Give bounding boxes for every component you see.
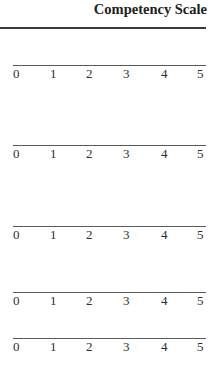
scale-tick-4[interactable]: 4 xyxy=(161,340,168,353)
scale-tick-5[interactable]: 5 xyxy=(197,340,204,353)
scale-tick-3[interactable]: 3 xyxy=(123,147,130,160)
scale-tick-3[interactable]: 3 xyxy=(123,67,130,80)
scale-line xyxy=(13,292,206,293)
scale-tick-0[interactable]: 0 xyxy=(13,294,20,307)
rating-scale-1[interactable]: 0 1 2 3 4 5 xyxy=(13,65,206,83)
scale-tick-5[interactable]: 5 xyxy=(197,228,204,241)
scale-tick-2[interactable]: 2 xyxy=(86,147,93,160)
scale-tick-1[interactable]: 1 xyxy=(50,228,57,241)
scale-tick-4[interactable]: 4 xyxy=(161,67,168,80)
scale-tick-3[interactable]: 3 xyxy=(123,340,130,353)
rating-scale-2[interactable]: 0 1 2 3 4 5 xyxy=(13,145,206,163)
scale-tick-2[interactable]: 2 xyxy=(86,294,93,307)
scale-tick-1[interactable]: 1 xyxy=(50,67,57,80)
scale-tick-4[interactable]: 4 xyxy=(161,228,168,241)
scale-tick-0[interactable]: 0 xyxy=(13,147,20,160)
scale-tick-5[interactable]: 5 xyxy=(197,294,204,307)
scale-tick-4[interactable]: 4 xyxy=(161,147,168,160)
scale-line xyxy=(13,338,206,339)
scale-tick-5[interactable]: 5 xyxy=(197,67,204,80)
scale-tick-0[interactable]: 0 xyxy=(13,340,20,353)
rating-scale-5[interactable]: 0 1 2 3 4 5 xyxy=(13,338,206,356)
scale-line xyxy=(13,226,206,227)
scale-line xyxy=(13,145,206,146)
rating-scale-3[interactable]: 0 1 2 3 4 5 xyxy=(13,226,206,244)
scale-tick-4[interactable]: 4 xyxy=(161,294,168,307)
scale-tick-3[interactable]: 3 xyxy=(123,228,130,241)
scale-tick-2[interactable]: 2 xyxy=(86,67,93,80)
scale-tick-3[interactable]: 3 xyxy=(123,294,130,307)
scale-tick-1[interactable]: 1 xyxy=(50,147,57,160)
scale-tick-2[interactable]: 2 xyxy=(86,340,93,353)
scale-tick-1[interactable]: 1 xyxy=(50,340,57,353)
scale-tick-5[interactable]: 5 xyxy=(197,147,204,160)
competency-scale-title: Competency Scale xyxy=(94,1,207,18)
scale-tick-1[interactable]: 1 xyxy=(50,294,57,307)
scale-tick-2[interactable]: 2 xyxy=(86,228,93,241)
scale-line xyxy=(13,65,206,66)
rating-scale-4[interactable]: 0 1 2 3 4 5 xyxy=(13,292,206,310)
scale-tick-0[interactable]: 0 xyxy=(13,228,20,241)
header-rule xyxy=(0,27,206,29)
scale-tick-0[interactable]: 0 xyxy=(13,67,20,80)
